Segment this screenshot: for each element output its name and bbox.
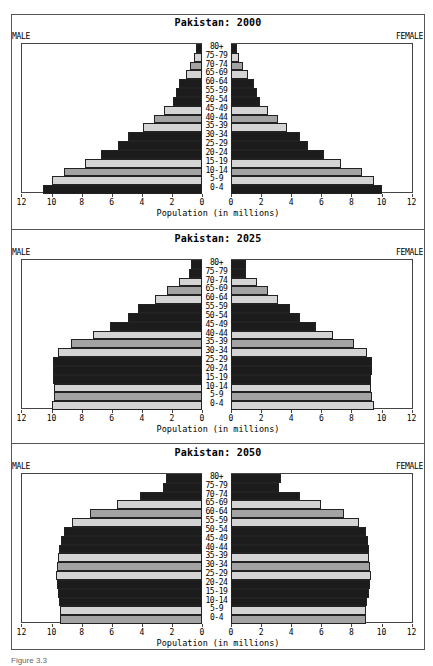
x-tick-mark	[412, 194, 413, 197]
x-tick-label: 10	[377, 414, 387, 423]
x-tick-mark	[52, 410, 53, 413]
figure-caption: Figure 3.3	[11, 656, 47, 665]
x-tick-mark	[321, 194, 322, 197]
x-tick-label: 12	[17, 198, 27, 207]
female-label: FEMALE	[396, 32, 423, 41]
male-bar	[117, 500, 202, 509]
female-bar	[231, 606, 366, 615]
female-bar	[231, 70, 248, 79]
x-tick-label: 8	[349, 628, 354, 637]
age-group-labels: 80+75-7970-7465-6960-6455-5950-5445-4940…	[202, 259, 231, 409]
male-bar	[64, 168, 202, 177]
male-bar	[54, 384, 202, 393]
male-bar	[190, 62, 202, 71]
female-bar	[231, 357, 372, 366]
male-bar	[53, 375, 202, 384]
x-tick-mark	[382, 624, 383, 627]
x-tick-mark	[202, 410, 203, 413]
female-bar	[231, 375, 371, 384]
male-bar	[59, 598, 202, 607]
x-tick-mark	[82, 194, 83, 197]
male-bar	[59, 545, 202, 554]
age-group-label: 0-4	[202, 184, 231, 193]
female-bar	[231, 313, 300, 322]
female-bar	[231, 88, 257, 97]
x-tick-mark	[291, 624, 292, 627]
pyramid-panel-2025: Pakistan: 2025 MALE FEMALE 80+75-7970-74…	[11, 229, 425, 443]
male-bar	[58, 348, 202, 357]
chart-title: Pakistan: 2050	[11, 447, 425, 458]
x-tick-label: 8	[79, 414, 84, 423]
age-group-label: 0-4	[202, 400, 231, 409]
male-bar	[173, 97, 202, 106]
male-bar	[128, 313, 202, 322]
female-bar	[231, 401, 374, 410]
x-tick-label: 6	[319, 414, 324, 423]
x-axis-ticks: 121086420024681012	[11, 410, 425, 422]
male-bar	[93, 331, 202, 340]
male-plot-area	[21, 259, 202, 409]
x-tick-mark	[82, 410, 83, 413]
x-tick-label: 2	[169, 414, 174, 423]
male-bar	[176, 88, 202, 97]
x-tick-mark	[261, 410, 262, 413]
x-tick-label: 0	[229, 414, 234, 423]
x-tick-mark	[202, 194, 203, 197]
x-tick-label: 10	[47, 414, 57, 423]
x-tick-mark	[21, 194, 22, 197]
age-group-label: 0-4	[202, 614, 231, 623]
x-tick-mark	[291, 194, 292, 197]
x-tick-label: 0	[200, 414, 205, 423]
female-bar	[231, 392, 372, 401]
male-bar	[191, 260, 202, 269]
male-bar	[58, 589, 202, 598]
male-bar	[61, 536, 202, 545]
female-bar	[231, 97, 260, 106]
female-bar	[231, 580, 370, 589]
female-bar	[231, 260, 246, 269]
female-bar	[231, 571, 371, 580]
male-bar	[128, 132, 202, 141]
x-tick-label: 12	[407, 628, 417, 637]
female-bar	[231, 159, 341, 168]
female-bar	[231, 589, 369, 598]
female-bar	[231, 562, 370, 571]
male-bar	[72, 518, 202, 527]
x-tick-mark	[52, 194, 53, 197]
x-tick-mark	[21, 624, 22, 627]
male-bar	[143, 123, 202, 132]
x-tick-mark	[172, 194, 173, 197]
female-bar	[231, 62, 243, 71]
female-bar	[231, 278, 257, 287]
x-tick-mark	[261, 194, 262, 197]
x-tick-label: 0	[200, 628, 205, 637]
female-bar	[231, 168, 362, 177]
x-tick-mark	[112, 624, 113, 627]
female-bar	[231, 304, 290, 313]
female-bar	[231, 286, 268, 295]
male-bar	[163, 483, 202, 492]
female-bar	[231, 115, 278, 124]
female-bar	[231, 132, 300, 141]
x-tick-label: 0	[229, 198, 234, 207]
female-bar	[231, 545, 369, 554]
male-bar	[85, 159, 202, 168]
female-plot-area	[231, 473, 413, 623]
age-group-labels: 80+75-7970-7465-6960-6455-5950-5445-4940…	[202, 43, 231, 193]
x-tick-label: 6	[319, 628, 324, 637]
x-tick-mark	[52, 624, 53, 627]
x-tick-mark	[231, 194, 232, 197]
male-bar	[167, 286, 202, 295]
female-bar	[231, 509, 344, 518]
x-tick-label: 2	[169, 198, 174, 207]
male-bar	[140, 492, 202, 501]
x-tick-mark	[382, 194, 383, 197]
x-tick-mark	[172, 410, 173, 413]
x-tick-label: 4	[139, 414, 144, 423]
x-tick-label: 4	[289, 628, 294, 637]
x-tick-mark	[351, 194, 352, 197]
male-bar	[71, 339, 202, 348]
male-bar	[194, 53, 202, 62]
male-bar	[189, 269, 202, 278]
female-bar	[231, 150, 324, 159]
